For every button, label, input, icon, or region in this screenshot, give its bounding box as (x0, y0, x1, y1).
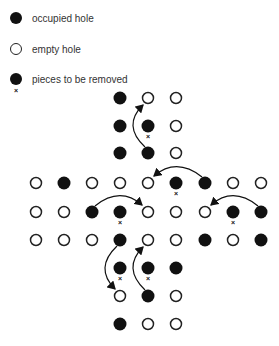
x-mark-icon: × (146, 275, 150, 282)
empty-hole (143, 319, 154, 330)
move-arrow (211, 196, 258, 206)
x-mark-icon: × (146, 133, 150, 140)
empty-hole (171, 148, 182, 159)
empty-hole (87, 235, 98, 246)
empty-hole (171, 319, 182, 330)
empty-hole (143, 235, 154, 246)
empty-hole (87, 178, 98, 189)
empty-hole (143, 93, 154, 104)
empty-hole (59, 235, 70, 246)
occupied-peg (199, 234, 212, 247)
move-arrow (95, 196, 142, 206)
occupied-peg (114, 92, 127, 105)
peg-solitaire-board: ×××××× (0, 0, 279, 346)
empty-hole (31, 178, 42, 189)
occupied-peg (114, 318, 127, 331)
occupied-peg (142, 147, 155, 160)
empty-hole (171, 291, 182, 302)
empty-hole (228, 235, 239, 246)
empty-hole (171, 121, 182, 132)
empty-hole (228, 178, 239, 189)
occupied-peg (114, 147, 127, 160)
empty-hole (200, 207, 211, 218)
occupied-peg (199, 177, 212, 190)
empty-hole (31, 207, 42, 218)
x-mark-icon: × (118, 219, 122, 226)
peg-to-remove (114, 262, 127, 275)
empty-hole (59, 207, 70, 218)
empty-hole (115, 178, 126, 189)
peg-to-remove (142, 262, 155, 275)
move-arrow (154, 167, 202, 177)
empty-hole (143, 178, 154, 189)
peg-to-remove (227, 206, 240, 219)
empty-hole (171, 235, 182, 246)
x-mark-icon: × (118, 275, 122, 282)
occupied-peg (58, 177, 71, 190)
occupied-peg (170, 262, 183, 275)
peg-to-remove (114, 206, 127, 219)
occupied-peg (255, 234, 268, 247)
occupied-peg (142, 290, 155, 303)
empty-hole (143, 207, 154, 218)
occupied-peg (255, 206, 268, 219)
x-mark-icon: × (231, 219, 235, 226)
peg-to-remove (142, 120, 155, 133)
empty-hole (31, 235, 42, 246)
occupied-peg (114, 120, 127, 133)
empty-hole (171, 207, 182, 218)
empty-hole (115, 291, 126, 302)
occupied-peg (86, 206, 99, 219)
empty-hole (171, 93, 182, 104)
occupied-peg (114, 234, 127, 247)
x-mark-icon: × (174, 190, 178, 197)
peg-to-remove (170, 177, 183, 190)
empty-hole (256, 178, 267, 189)
